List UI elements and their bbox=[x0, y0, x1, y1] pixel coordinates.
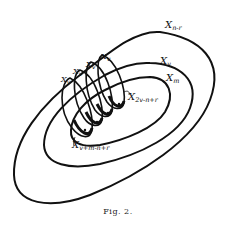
label-2v-n-r: X2v-n+r bbox=[128, 92, 158, 104]
label-inner-set: Xm bbox=[166, 73, 179, 85]
label-loop-2: Xv bbox=[73, 68, 82, 78]
label-loop-3: Xv bbox=[86, 61, 95, 71]
label-outer-set: Xn-r bbox=[165, 20, 182, 32]
figure-caption: Fig. 2. bbox=[0, 207, 236, 216]
label-v-m-n-r: Xv+m-n+r bbox=[72, 140, 109, 152]
label-loop-1: Xv bbox=[61, 76, 70, 86]
label-middle-set: Xv bbox=[160, 56, 171, 68]
set-diagram bbox=[0, 0, 236, 237]
label-loop-4: Xv bbox=[101, 53, 110, 63]
